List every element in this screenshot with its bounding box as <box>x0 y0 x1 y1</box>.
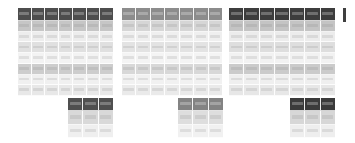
table-row[interactable] <box>18 32 113 43</box>
table-cell <box>275 75 290 86</box>
table-cell <box>244 64 259 75</box>
table-cell <box>87 21 101 32</box>
table-cell <box>290 32 305 43</box>
cell-text-blur <box>100 102 111 105</box>
cell-text-blur <box>70 102 81 105</box>
table-row[interactable] <box>18 85 113 96</box>
table-row[interactable] <box>18 53 113 64</box>
cell-text-blur <box>292 78 303 81</box>
table-cell <box>275 53 290 64</box>
table-row[interactable] <box>122 53 222 64</box>
cutoff-table-fragment[interactable] <box>343 8 346 22</box>
table-row[interactable] <box>18 21 113 32</box>
table-cell <box>165 21 179 32</box>
table-row[interactable] <box>122 75 222 86</box>
subtable-header-row <box>68 98 113 111</box>
cell-text-blur <box>196 78 206 81</box>
cell-text-blur <box>74 67 84 70</box>
table-cell <box>151 85 165 96</box>
subtable-header-cell <box>178 98 193 111</box>
table-row[interactable] <box>122 21 222 32</box>
cell-text-blur <box>292 102 303 105</box>
table-cell <box>73 32 87 43</box>
table-cell <box>18 42 32 53</box>
table-row[interactable] <box>18 64 113 75</box>
table-cell <box>122 53 136 64</box>
table-cell <box>305 42 320 53</box>
small-table-1[interactable] <box>68 98 113 138</box>
table-row[interactable] <box>122 64 222 75</box>
subtable-row[interactable] <box>178 111 223 125</box>
cell-text-blur <box>102 56 112 59</box>
table-row[interactable] <box>122 42 222 53</box>
table-row[interactable] <box>229 42 335 53</box>
cell-text-blur <box>102 88 112 91</box>
cell-text-blur <box>210 115 221 119</box>
table-cell <box>100 53 113 64</box>
subtable-cell <box>193 111 208 125</box>
cell-text-blur <box>246 88 257 91</box>
table-row[interactable] <box>229 85 335 96</box>
cell-text-blur <box>19 78 29 81</box>
subtable-header-cell <box>209 98 223 111</box>
cell-text-blur <box>210 46 220 49</box>
cell-text-blur <box>88 12 98 15</box>
cell-text-blur <box>88 67 98 70</box>
large-table-2[interactable] <box>122 8 222 96</box>
table-cell <box>151 32 165 43</box>
cell-text-blur <box>307 12 318 15</box>
cell-text-blur <box>33 67 43 70</box>
table-cell <box>18 85 32 96</box>
small-table-3[interactable] <box>290 98 335 138</box>
small-table-2[interactable] <box>178 98 223 138</box>
table-header-cell <box>151 8 165 21</box>
table-row[interactable] <box>18 75 113 86</box>
cell-text-blur <box>322 24 333 27</box>
table-row[interactable] <box>229 64 335 75</box>
cell-text-blur <box>85 129 96 133</box>
cell-text-blur <box>246 46 257 49</box>
cell-text-blur <box>33 46 43 49</box>
subtable-header-cell <box>321 98 335 111</box>
cell-text-blur <box>180 129 191 133</box>
cell-text-blur <box>19 12 29 15</box>
cell-text-blur <box>102 12 112 15</box>
table-cell <box>59 64 73 75</box>
subtable-cell <box>305 111 320 125</box>
subtable-header-row <box>290 98 335 111</box>
cell-text-blur <box>167 78 177 81</box>
table-cell <box>290 21 305 32</box>
subtable-row[interactable] <box>68 111 113 125</box>
subtable-row[interactable] <box>290 111 335 125</box>
table-row[interactable] <box>229 21 335 32</box>
large-table-3[interactable] <box>229 8 335 96</box>
table-cell <box>87 85 101 96</box>
cell-text-blur <box>276 88 287 91</box>
large-table-1[interactable] <box>18 8 113 96</box>
cell-text-blur <box>123 56 133 59</box>
table-row[interactable] <box>229 32 335 43</box>
table-cell <box>229 21 244 32</box>
table-cell <box>180 53 194 64</box>
subtable-cell <box>83 125 98 139</box>
subtable-row[interactable] <box>178 125 223 139</box>
cell-text-blur <box>102 35 112 38</box>
table-cell <box>321 64 335 75</box>
table-row[interactable] <box>122 32 222 43</box>
cell-text-blur <box>276 67 287 70</box>
table-row[interactable] <box>229 53 335 64</box>
cell-text-blur <box>47 56 57 59</box>
cell-text-blur <box>210 35 220 38</box>
table-cell <box>194 75 208 86</box>
table-row[interactable] <box>122 85 222 96</box>
subtable-row[interactable] <box>290 125 335 139</box>
table-row[interactable] <box>229 75 335 86</box>
table-row[interactable] <box>18 42 113 53</box>
table-cell <box>122 21 136 32</box>
subtable-row[interactable] <box>68 125 113 139</box>
table-header-cell <box>321 8 335 21</box>
table-cell <box>136 32 150 43</box>
cell-text-blur <box>47 12 57 15</box>
table-cell <box>122 85 136 96</box>
table-cell <box>73 85 87 96</box>
